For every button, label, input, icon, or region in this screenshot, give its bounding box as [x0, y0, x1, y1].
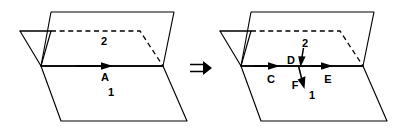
left-label-vector-A: A [101, 71, 109, 83]
right-label-vector-F: F [292, 79, 299, 91]
vector-E-arrowhead [321, 62, 333, 70]
right-label-plane-1: 1 [309, 89, 315, 101]
diagram-canvas: 2 A 1 [0, 0, 396, 128]
right-label-plane-2: 2 [302, 37, 308, 49]
vector-C-arrowhead [268, 62, 280, 70]
right-panel-group: 2 D C E F 1 [220, 12, 387, 121]
right-vector-E [311, 62, 333, 70]
left-label-plane-2: 2 [101, 35, 107, 47]
right-label-vector-C: C [267, 73, 275, 85]
right-label-vector-E: E [324, 73, 331, 85]
left-plane-2-outline [41, 12, 174, 66]
double-right-arrow-head [203, 61, 212, 75]
right-vector-F [298, 66, 306, 89]
left-panel-group: 2 A 1 [20, 12, 187, 121]
left-vector-A [76, 62, 113, 70]
implies-operator [190, 61, 212, 75]
vector-A-arrowhead [101, 62, 113, 70]
right-label-vector-D: D [287, 54, 295, 66]
figure-container: 2 A 1 [0, 0, 396, 128]
left-label-plane-1: 1 [108, 86, 114, 98]
vector-F-shaft [299, 66, 302, 78]
right-vector-D [298, 48, 305, 67]
vector-F-arrowhead [298, 76, 306, 89]
right-vector-C [254, 62, 280, 70]
